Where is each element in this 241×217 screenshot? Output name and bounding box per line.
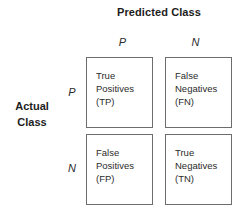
column-header-row: P N — [86, 33, 232, 51]
column-header-n: N — [159, 33, 232, 51]
row-header-n: N — [62, 162, 82, 174]
confusion-matrix-grid: True Positives (TP) False Negatives (FN)… — [86, 57, 232, 205]
matrix-cell-true-positives: True Positives (TP) — [86, 57, 153, 128]
row-header-p: P — [62, 86, 82, 98]
matrix-cell-false-positives-line2: Positives — [96, 159, 152, 172]
matrix-cell-false-positives-line3: (FP) — [96, 172, 152, 185]
matrix-cell-true-negatives-line1: True — [175, 146, 231, 159]
matrix-cell-true-positives-line1: True — [96, 69, 152, 82]
matrix-cell-false-positives-text: False Positives (FP) — [96, 146, 152, 185]
matrix-cell-false-negatives-line1: False — [175, 69, 231, 82]
matrix-cell-true-negatives: True Negatives (TN) — [165, 134, 232, 205]
matrix-cell-false-negatives-line2: Negatives — [175, 82, 231, 95]
matrix-cell-false-negatives: False Negatives (FN) — [165, 57, 232, 128]
matrix-cell-true-negatives-line2: Negatives — [175, 159, 231, 172]
matrix-cell-false-positives-line1: False — [96, 146, 152, 159]
matrix-cell-true-negatives-text: True Negatives (TN) — [175, 146, 231, 185]
matrix-cell-false-positives: False Positives (FP) — [86, 134, 153, 205]
matrix-cell-false-negatives-line3: (FN) — [175, 95, 231, 108]
matrix-cell-true-positives-text: True Positives (TP) — [96, 69, 152, 108]
actual-class-axis-title: Actual Class — [4, 98, 60, 130]
confusion-matrix-figure: Predicted Class P N Actual Class P N Tru… — [0, 0, 241, 217]
matrix-cell-true-negatives-line3: (TN) — [175, 172, 231, 185]
matrix-cell-true-positives-line2: Positives — [96, 82, 152, 95]
matrix-cell-true-positives-line3: (TP) — [96, 95, 152, 108]
predicted-class-axis-title: Predicted Class — [86, 6, 232, 18]
actual-class-axis-title-line2: Class — [4, 114, 60, 130]
column-header-p: P — [86, 33, 159, 51]
matrix-cell-false-negatives-text: False Negatives (FN) — [175, 69, 231, 108]
actual-class-axis-title-line1: Actual — [4, 98, 60, 114]
